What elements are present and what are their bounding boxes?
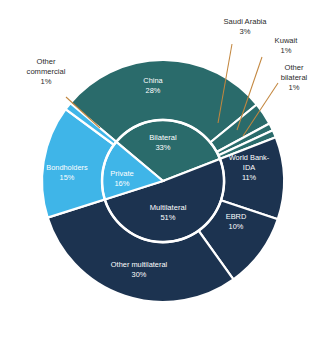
- label-saudi-arabia-value: 3%: [240, 27, 251, 36]
- label-other-commercial-value: 1%: [41, 77, 52, 86]
- label-ebrd-name: EBRD: [226, 212, 247, 221]
- label-other-bilateral-value: 1%: [289, 83, 300, 92]
- label-kuwait-value: 1%: [281, 46, 292, 55]
- label-worldbank-name-line2: IDA: [243, 163, 255, 172]
- label-ebrd-value: 10%: [229, 222, 244, 231]
- label-saudi-arabia-name: Saudi Arabia: [223, 17, 267, 26]
- label-other-multilateral-name: Other multilateral: [111, 260, 168, 269]
- label-private-name: Private: [110, 169, 134, 178]
- label-private-value: 16%: [114, 179, 129, 188]
- label-kuwait-name: Kuwait: [275, 36, 299, 45]
- label-china-value: 28%: [146, 86, 161, 95]
- label-worldbank-value: 11%: [242, 173, 257, 182]
- pie-chart-svg: China 28% World Bank- IDA 11% EBRD 10% O…: [0, 0, 328, 342]
- label-other-multilateral-value: 30%: [132, 270, 147, 279]
- donut-chart: China 28% World Bank- IDA 11% EBRD 10% O…: [0, 0, 328, 342]
- label-multilateral-value: 51%: [160, 213, 175, 222]
- label-bilateral-name: Bilateral: [149, 133, 177, 142]
- label-bondholders-value: 15%: [60, 173, 75, 182]
- label-other-commercial-line2: commercial: [27, 67, 66, 76]
- label-multilateral-name: Multilateral: [150, 203, 187, 212]
- label-worldbank-name-line1: World Bank-: [229, 153, 270, 162]
- label-china-name: China: [143, 76, 163, 85]
- label-bondholders-name: Bondholders: [46, 163, 88, 172]
- label-other-bilateral-line1: Other: [285, 63, 304, 72]
- label-other-commercial-line1: Other: [37, 57, 56, 66]
- label-bilateral-value: 33%: [155, 143, 170, 152]
- label-other-bilateral-line2: bilateral: [281, 73, 308, 82]
